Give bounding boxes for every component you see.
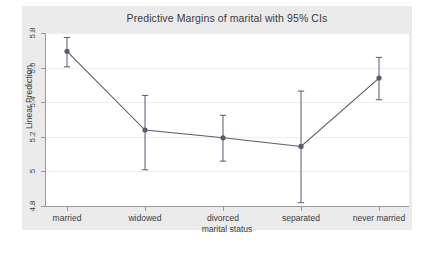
y-tick-mark: [41, 68, 45, 69]
y-tick-label: 4.8: [24, 200, 40, 212]
x-tick-mark: [223, 207, 224, 211]
x-tick-label-never-married: never married: [353, 213, 405, 223]
x-tick-label-married: married: [53, 213, 82, 223]
chart-title: Predictive Margins of marital with 95% C…: [45, 12, 409, 24]
chart-screenshot: Predictive Margins of marital with 95% C…: [0, 0, 436, 253]
y-tick-mark: [41, 171, 45, 172]
gridline: [46, 33, 409, 34]
gridline: [46, 102, 409, 103]
y-tick-label: 5.6: [24, 62, 40, 74]
x-tick-mark: [379, 207, 380, 211]
y-tick-mark: [41, 33, 45, 34]
gridline: [46, 171, 409, 172]
y-tick-label: 5.4: [24, 96, 40, 108]
x-tick-label-divorced: divorced: [207, 213, 239, 223]
x-axis-title: marital status: [45, 224, 409, 234]
y-tick-label: 5.8: [24, 27, 40, 39]
x-tick-mark: [301, 207, 302, 211]
x-tick-mark: [67, 207, 68, 211]
x-tick-mark: [145, 207, 146, 211]
gridline: [46, 68, 409, 69]
y-tick-mark: [41, 206, 45, 207]
y-tick-mark: [41, 137, 45, 138]
x-tick-label-separated: separated: [282, 213, 320, 223]
x-tick-label-widowed: widowed: [128, 213, 161, 223]
plot-area: [45, 33, 409, 207]
y-tick-label: 5.2: [24, 131, 40, 143]
y-tick-mark: [41, 102, 45, 103]
y-tick-label: 5: [24, 165, 40, 177]
gridline: [46, 137, 409, 138]
